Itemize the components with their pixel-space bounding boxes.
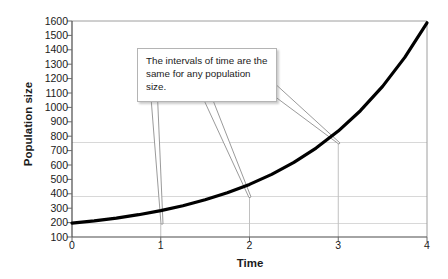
gridlines-vertical [161,143,339,238]
y-axis-title: Population size [22,44,34,204]
x-axis-title: Time [72,257,428,269]
exponential-growth-chart: 1600 1500 1400 1300 1200 1100 1000 900 8… [0,0,448,279]
y-tick-label: 200 [26,217,68,228]
callout-leader-lines [150,84,340,224]
x-tick-label: 2 [235,240,265,251]
y-tick-label: 1500 [26,30,68,41]
x-tick-label: 4 [412,240,442,251]
x-tick-label: 3 [323,240,353,251]
annotation-callout: The intervals of time are the same for a… [137,48,277,102]
y-tick-label: 1600 [26,16,68,27]
y-tick-label: 300 [26,203,68,214]
x-tick-label: 1 [146,240,176,251]
x-tick-label: 0 [57,240,87,251]
